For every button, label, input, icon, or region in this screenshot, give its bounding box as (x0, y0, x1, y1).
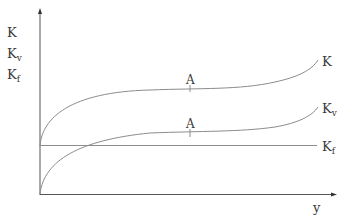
x-axis-label: y (312, 200, 321, 215)
y-axis-arrow-icon (38, 8, 42, 14)
curve-label-kf: Kf (322, 139, 336, 156)
curve-label-k: K (322, 54, 332, 69)
point-a-label-k: A (185, 73, 195, 87)
x-axis-arrow-icon (331, 193, 337, 197)
diagram-canvas: A A K Kv Kf K Kv Kf y (0, 0, 355, 221)
curve-label-kv: Kv (322, 101, 338, 118)
y-axis-label-k: K (7, 25, 17, 40)
cost-curve-diagram: A A K Kv Kf K Kv Kf y (0, 0, 355, 221)
y-axis-label-kv: Kv (7, 46, 23, 63)
kv-curve (40, 107, 318, 194)
y-axis-label-kf: Kf (7, 67, 21, 84)
point-a-label-kv: A (185, 117, 195, 131)
k-curve (40, 60, 318, 146)
